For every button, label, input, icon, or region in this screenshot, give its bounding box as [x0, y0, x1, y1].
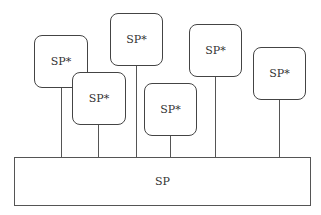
- child-node-label: SP*: [269, 67, 289, 80]
- child-node-3: SP*: [110, 13, 163, 66]
- connector-2: [98, 124, 99, 157]
- connector-1: [61, 87, 62, 157]
- connector-3: [136, 65, 137, 157]
- child-node-4: SP*: [144, 83, 197, 136]
- child-node-label: SP*: [205, 44, 225, 57]
- child-node-label: SP*: [89, 92, 109, 105]
- child-node-label: SP*: [160, 103, 180, 116]
- connector-5: [215, 77, 216, 157]
- child-node-2: SP*: [72, 72, 126, 125]
- base-node: SP: [14, 157, 311, 206]
- connector-4: [170, 135, 171, 157]
- child-node-6: SP*: [253, 47, 306, 100]
- child-node-label: SP*: [126, 33, 146, 46]
- child-node-label: SP*: [51, 55, 71, 68]
- base-node-label: SP: [155, 175, 170, 188]
- child-node-5: SP*: [189, 24, 242, 77]
- connector-6: [279, 99, 280, 157]
